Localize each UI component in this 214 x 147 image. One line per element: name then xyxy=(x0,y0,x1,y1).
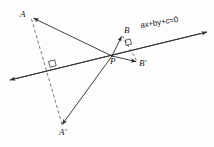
label-point-b-prime: B' xyxy=(139,59,146,68)
label-point-a: A xyxy=(20,10,26,19)
mirror-line xyxy=(10,32,207,80)
right-angle-marker-AA-foot xyxy=(49,60,57,67)
label-point-b: B xyxy=(124,26,130,35)
segment-P-to-A-prime xyxy=(62,56,112,125)
segment-A-to-A-prime-dashed xyxy=(32,19,63,126)
geometry-canvas xyxy=(0,0,214,147)
geometry-figure: A A' B B' P ax+by+c=0 xyxy=(0,0,214,147)
label-point-a-prime: A' xyxy=(59,128,66,137)
segment-P-to-A xyxy=(34,18,113,56)
label-point-p: P xyxy=(110,57,116,66)
